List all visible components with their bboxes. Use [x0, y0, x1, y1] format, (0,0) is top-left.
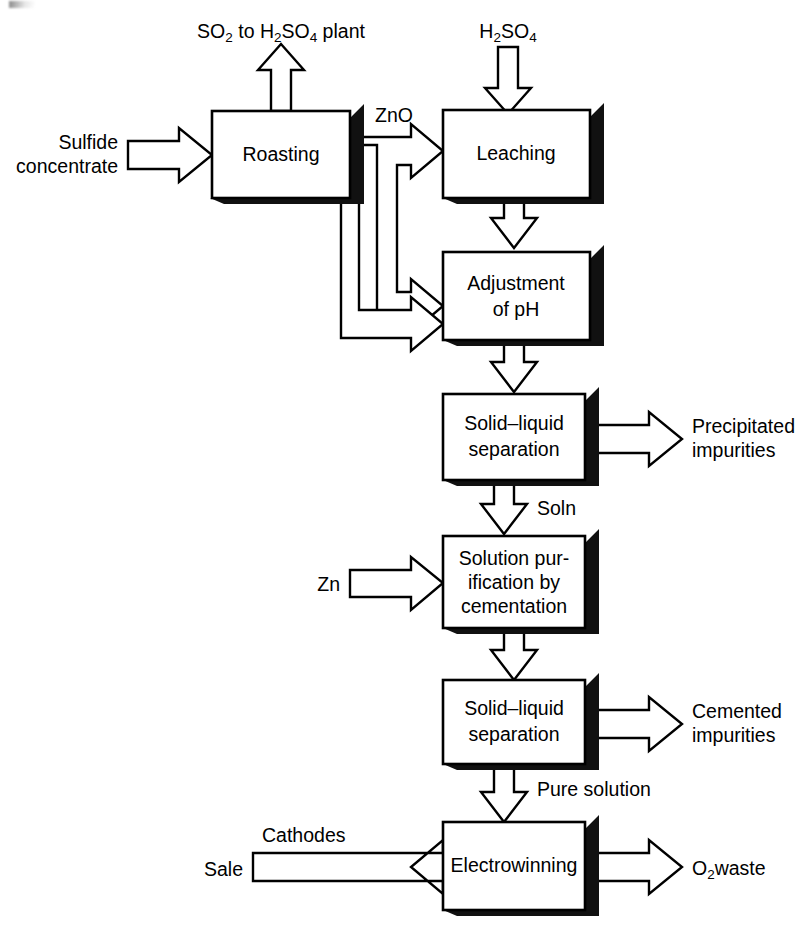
label-sale: Sale [204, 858, 243, 880]
process-box-ph-adjustment[interactable]: Adjustment of pH [443, 245, 604, 346]
ph-label-line2: of pH [493, 298, 540, 320]
arrow-leaching-to-ph [491, 198, 537, 248]
label-cemented-line1: Cemented [692, 700, 782, 722]
stream-precipitated-impurities: Precipitated impurities [585, 412, 795, 466]
sl2-label-line2: separation [468, 723, 559, 745]
stream-soln: Soln [481, 480, 576, 534]
sl2-label-line1: Solid–liquid [464, 697, 564, 719]
label-zn-in: Zn [317, 573, 340, 595]
arrow-feed-in [128, 128, 212, 182]
arrow-zn-in [350, 557, 443, 610]
arrow-h2so4-in [485, 47, 531, 114]
arrow-pure-solution [481, 764, 527, 822]
label-o2-waste: O2waste [692, 857, 766, 882]
arrow-cathodes [253, 840, 443, 894]
arrow-purification-to-sl2 [491, 628, 537, 680]
stream-zn-in: Zn [317, 557, 443, 610]
process-flow-diagram: SO2 to H2SO4 plant H2SO4 Sulfide concent… [0, 0, 803, 928]
process-box-solid-liquid-separation-2[interactable]: Solid–liquid separation [443, 673, 599, 770]
arrow-so2-out [258, 44, 304, 111]
process-box-solid-liquid-separation-1[interactable]: Solid–liquid separation [443, 387, 599, 486]
stream-cathodes-to-sale: Cathodes Sale [204, 824, 443, 894]
label-cathodes: Cathodes [262, 824, 346, 846]
stream-h2so4-in: H2SO4 [479, 20, 537, 114]
process-box-electrowinning[interactable]: Electrowinning [443, 815, 599, 916]
stream-ph-to-sl1 [491, 340, 537, 392]
label-zno: ZnO [375, 104, 413, 126]
purification-label-line2: ification by [468, 571, 560, 593]
purification-label-line1: Solution pur- [459, 547, 570, 569]
stream-o2-waste: O2waste [585, 840, 766, 894]
stream-so2-out: SO2 to H2SO4 plant [197, 20, 365, 111]
sl1-rect [443, 394, 585, 480]
label-precipitated-line2: impurities [692, 439, 776, 461]
roasting-label: Roasting [243, 143, 320, 165]
arrow-ph-to-sl1 [491, 340, 537, 392]
sl2-rect [443, 680, 585, 764]
label-soln: Soln [537, 497, 576, 519]
ph-label-line1: Adjustment [467, 272, 565, 294]
label-h2so4-in: H2SO4 [479, 20, 537, 45]
electrowinning-label: Electrowinning [451, 854, 578, 876]
sl1-label-line1: Solid–liquid [464, 412, 564, 434]
label-precipitated-line1: Precipitated [692, 415, 795, 437]
stream-pure-solution: Pure solution [481, 764, 651, 822]
ph-rect [443, 252, 590, 340]
arrow-cemented-impurities [585, 697, 682, 751]
label-feed-line2: concentrate [16, 155, 118, 177]
stream-sulfide-concentrate-in: Sulfide concentrate [16, 128, 212, 182]
arrow-soln [481, 480, 527, 534]
arrow-o2-waste [585, 840, 682, 894]
process-box-solution-purification[interactable]: Solution pur- ification by cementation [443, 529, 599, 634]
sl1-label-line2: separation [468, 438, 559, 460]
label-cemented-line2: impurities [692, 724, 776, 746]
leaching-label: Leaching [476, 142, 555, 164]
flowsheet-canvas: SO2 to H2SO4 plant H2SO4 Sulfide concent… [0, 0, 803, 928]
stream-leaching-to-ph [491, 198, 537, 248]
label-so2-out: SO2 to H2SO4 plant [197, 20, 365, 45]
label-feed-line1: Sulfide [58, 131, 118, 153]
purification-label-line3: cementation [461, 595, 567, 617]
process-box-leaching[interactable]: Leaching [443, 103, 604, 204]
stream-purification-to-sl2 [491, 628, 537, 680]
label-pure-solution: Pure solution [537, 778, 651, 800]
process-box-roasting[interactable]: Roasting [210, 104, 364, 204]
stream-cemented-impurities: Cemented impurities [585, 697, 782, 751]
arrow-precipitated-impurities [585, 412, 682, 466]
